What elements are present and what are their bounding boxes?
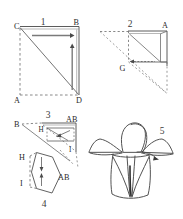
- panel3-label-H: H: [39, 126, 44, 134]
- panel5-left-petal-edge: [90, 153, 122, 155]
- panel4-up-arrow-head: [40, 173, 44, 178]
- panel2-label-A: A: [162, 21, 168, 30]
- panel2-guide-lower: [129, 62, 167, 93]
- panel5-right-petal-edge: [142, 153, 173, 155]
- panel-2: 2 A G: [100, 19, 168, 93]
- panel3-number: 3: [46, 110, 51, 120]
- panel3-label-I: I: [69, 146, 72, 154]
- panel1-label-C: C: [14, 22, 20, 31]
- panel3-label-B: B: [14, 120, 20, 129]
- diagram-canvas: 1 C B A D: [0, 0, 183, 219]
- panel1-horizontal-arrow-head: [70, 33, 75, 38]
- panel5-left-petal: [89, 139, 122, 152]
- panel4-down-arrow-head: [40, 167, 44, 172]
- panel4-crease-bottomleft: [30, 187, 37, 189]
- panel-5: 5: [89, 123, 173, 198]
- panel3-label-AB: AB: [66, 115, 78, 124]
- panel1-diagonal-cd: [20, 28, 79, 95]
- panel5-center-petal-fold: [131, 124, 147, 153]
- panel4-label-H: H: [19, 153, 25, 162]
- panel5-center-petal: [121, 123, 145, 152]
- panel4-kite-outline: [32, 153, 61, 194]
- panel2-inner-diagonal: [130, 34, 161, 62]
- panel5-number: 5: [160, 126, 165, 136]
- panel3-flap-diagonal: [47, 128, 68, 141]
- panel5-base-rim: [113, 155, 149, 157]
- panel3-guide-b-top: [22, 123, 42, 124]
- panel1-label-B: B: [74, 18, 80, 27]
- panel3-guide-down-mid: [60, 150, 74, 165]
- panel1-vertical-arrow-head: [70, 44, 75, 49]
- panel2-label-G: G: [120, 64, 126, 73]
- panel-4: H I AB 4: [19, 153, 70, 210]
- panel5-stamen-accent: [130, 166, 131, 196]
- panel4-label-I: I: [20, 179, 23, 188]
- panel4-number: 4: [42, 199, 47, 209]
- panel1-number: 1: [41, 17, 46, 27]
- panel3-guide-down-right: [76, 152, 78, 168]
- panel-1: 1 C B A D: [14, 17, 82, 105]
- panel2-number: 2: [128, 19, 133, 29]
- panel1-label-A: A: [14, 96, 20, 105]
- panel4-label-AB: AB: [58, 173, 70, 182]
- panel1-label-D: D: [76, 96, 82, 105]
- panel2-bevel-top: [161, 31, 168, 34]
- origami-diagram-page: 1 C B A D: [0, 0, 183, 219]
- panel5-curl-arrow-head: [153, 157, 159, 161]
